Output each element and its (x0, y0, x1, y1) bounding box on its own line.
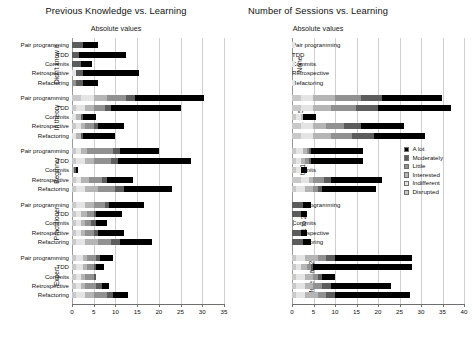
stacked-bar[interactable] (72, 114, 96, 120)
stacked-bar[interactable] (72, 186, 172, 192)
stacked-bar[interactable] (72, 230, 124, 236)
stacked-bar[interactable] (292, 239, 311, 245)
bar-row[interactable]: Refactoring (72, 80, 224, 86)
stacked-bar[interactable] (72, 70, 139, 76)
bar-row[interactable]: TDD (72, 211, 224, 217)
bar-row[interactable]: Retrospective (72, 70, 224, 76)
bar-row[interactable]: TDD (72, 264, 224, 270)
stacked-bar[interactable] (292, 202, 311, 208)
bar-row[interactable]: Pair programming (72, 95, 224, 101)
stacked-bar[interactable] (72, 167, 78, 173)
stacked-bar[interactable] (292, 95, 442, 101)
stacked-bar[interactable] (72, 239, 152, 245)
stacked-bar[interactable] (72, 105, 181, 111)
bar-row[interactable]: Pair programming (72, 42, 224, 48)
bar-row[interactable]: Refactoring (292, 239, 464, 245)
bar-row[interactable]: TDD (292, 211, 464, 217)
stacked-bar[interactable] (72, 292, 128, 298)
bar-row[interactable]: TDD (292, 52, 464, 58)
stacked-bar[interactable] (292, 123, 404, 129)
bar-row[interactable]: Commits (72, 274, 224, 280)
stacked-bar[interactable] (292, 80, 295, 86)
legend-item-alot[interactable]: A lot (404, 145, 472, 154)
legend-item-mod[interactable]: Moderately (404, 154, 472, 163)
stacked-bar[interactable] (292, 148, 363, 154)
bar-row[interactable]: Pair programming (292, 202, 464, 208)
stacked-bar[interactable] (72, 95, 204, 101)
stacked-bar[interactable] (292, 292, 410, 298)
stacked-bar[interactable] (72, 264, 104, 270)
stacked-bar[interactable] (292, 177, 382, 183)
bar-row[interactable]: Refactoring (292, 133, 464, 139)
bar-row[interactable]: Pair programming (292, 42, 464, 48)
stacked-bar[interactable] (72, 158, 191, 164)
bar-row[interactable]: Commits (292, 114, 464, 120)
stacked-bar[interactable] (72, 80, 98, 86)
bar-row[interactable]: Refactoring (72, 133, 224, 139)
bar-row[interactable]: Commits (292, 274, 464, 280)
stacked-bar[interactable] (72, 133, 115, 139)
stacked-bar[interactable] (292, 167, 307, 173)
bar-row[interactable]: Pair programming (72, 148, 224, 154)
bar-row[interactable]: Commits (72, 61, 224, 67)
stacked-bar[interactable] (292, 230, 307, 236)
stacked-bar[interactable] (292, 61, 295, 67)
bar-row[interactable]: TDD (292, 105, 464, 111)
bar-row[interactable]: Pair programming (72, 202, 224, 208)
stacked-bar[interactable] (72, 61, 92, 67)
bar-row[interactable]: Pair programming (292, 255, 464, 261)
bar-row[interactable]: Pair programming (292, 95, 464, 101)
bar-row[interactable]: Commits (72, 220, 224, 226)
legend-item-ind[interactable]: Indifferent (404, 179, 472, 188)
stacked-bar[interactable] (292, 186, 376, 192)
bar-row[interactable]: Retrospective (292, 283, 464, 289)
stacked-bar[interactable] (292, 133, 425, 139)
bar-row[interactable]: Retrospective (72, 230, 224, 236)
legend-item-lit[interactable]: Little (404, 162, 472, 171)
stacked-bar[interactable] (72, 52, 126, 58)
bar-row[interactable]: Pair programming (72, 255, 224, 261)
bar-row[interactable]: TDD (72, 158, 224, 164)
stacked-bar[interactable] (292, 114, 316, 120)
bar-row[interactable]: TDD (292, 264, 464, 270)
stacked-bar[interactable] (292, 105, 451, 111)
stacked-bar[interactable] (292, 255, 412, 261)
stacked-bar[interactable] (72, 274, 96, 280)
bar-row[interactable]: TDD (72, 52, 224, 58)
stacked-bar[interactable] (72, 177, 133, 183)
bar-row[interactable]: Retrospective (72, 283, 224, 289)
stacked-bar[interactable] (72, 148, 159, 154)
stacked-bar[interactable] (292, 264, 412, 270)
stacked-bar[interactable] (292, 211, 307, 217)
stacked-bar[interactable] (292, 42, 295, 48)
stacked-bar[interactable] (72, 220, 107, 226)
stacked-bar[interactable] (72, 123, 124, 129)
stacked-bar[interactable] (292, 158, 363, 164)
bar-row[interactable]: Refactoring (72, 292, 224, 298)
bar-row[interactable]: Refactoring (72, 186, 224, 192)
stacked-bar[interactable] (72, 202, 144, 208)
stacked-bar[interactable] (72, 283, 109, 289)
bar-row[interactable]: Refactoring (292, 80, 464, 86)
stacked-bar[interactable] (292, 274, 335, 280)
bar-row[interactable]: Retrospective (292, 123, 464, 129)
bar-row[interactable]: Retrospective (72, 177, 224, 183)
bar-row[interactable]: Retrospective (292, 230, 464, 236)
legend-label: Indifferent (412, 179, 439, 188)
bar-row[interactable]: Commits (292, 220, 464, 226)
bar-row[interactable]: Retrospective (72, 123, 224, 129)
stacked-bar[interactable] (72, 42, 98, 48)
bar-row[interactable]: Commits (72, 114, 224, 120)
bar-row[interactable]: Refactoring (72, 239, 224, 245)
bar-row[interactable]: Retrospective (292, 70, 464, 76)
bar-row[interactable]: Commits (72, 167, 224, 173)
bar-row[interactable]: Commits (292, 61, 464, 67)
legend-item-int[interactable]: Interested (404, 171, 472, 180)
stacked-bar[interactable] (292, 283, 391, 289)
stacked-bar[interactable] (72, 211, 122, 217)
stacked-bar[interactable] (72, 255, 113, 261)
stacked-bar[interactable] (292, 220, 294, 226)
legend-item-dis[interactable]: Disrupted (404, 188, 472, 197)
bar-row[interactable]: TDD (72, 105, 224, 111)
bar-row[interactable]: Refactoring (292, 292, 464, 298)
